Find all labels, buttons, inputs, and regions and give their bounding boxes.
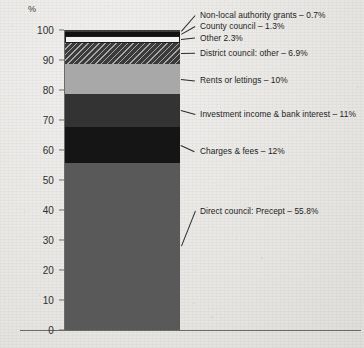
leader-line-charges-fees	[181, 145, 195, 152]
y-tick-label-100: 100	[28, 25, 54, 36]
callout-investment-income-bank-interest: Investment income & bank interest – 11%	[200, 109, 356, 119]
y-tick-label-60: 60	[28, 145, 54, 156]
stacked-bar-chart: % 1009080706050403020100 Non-local autho…	[0, 0, 364, 348]
bar-segment-county-council	[65, 32, 180, 36]
y-tick-label-40: 40	[28, 205, 54, 216]
y-tick-label-90: 90	[28, 55, 54, 66]
y-tick-mark-30	[59, 240, 64, 241]
y-tick-mark-40	[59, 210, 64, 211]
bar-segment-other	[65, 36, 180, 43]
y-tick-mark-90	[59, 60, 64, 61]
leader-line-investment-income-bank-interest	[181, 110, 195, 115]
callout-charges-fees: Charges & fees – 12%	[200, 146, 285, 156]
leader-line-district-council-other	[181, 53, 195, 54]
y-tick-label-80: 80	[28, 85, 54, 96]
bar-segment-direct-council-precept	[65, 163, 180, 330]
bar-segment-rents-or-lettings	[65, 64, 180, 94]
leader-line-direct-council-precept	[181, 211, 196, 247]
bar-segment-investment-income-bank-interest	[65, 94, 180, 127]
callout-rents-or-lettings: Rents or lettings – 10%	[200, 75, 288, 85]
y-tick-mark-100	[59, 30, 64, 31]
bar-segment-non-local-authority-grants	[65, 30, 180, 32]
y-tick-mark-70	[59, 120, 64, 121]
y-tick-label-0: 0	[28, 325, 54, 336]
y-tick-label-50: 50	[28, 175, 54, 186]
y-tick-mark-10	[59, 300, 64, 301]
y-axis-unit-label: %	[28, 4, 36, 14]
leader-line-other	[181, 38, 195, 40]
y-tick-mark-80	[59, 90, 64, 91]
y-tick-mark-0	[59, 330, 64, 331]
y-tick-label-30: 30	[28, 235, 54, 246]
y-tick-label-70: 70	[28, 115, 54, 126]
y-tick-mark-50	[59, 180, 64, 181]
x-axis-baseline	[20, 330, 361, 331]
y-tick-label-20: 20	[28, 265, 54, 276]
y-tick-mark-60	[59, 150, 64, 151]
callout-non-local-authority-grants: Non-local authority grants – 0.7%	[200, 10, 325, 20]
y-tick-mark-20	[59, 270, 64, 271]
y-tick-label-10: 10	[28, 295, 54, 306]
callout-other: Other 2.3%	[200, 33, 243, 43]
leader-line-rents-or-lettings	[181, 79, 195, 81]
callout-direct-council-precept: Direct council: Precept – 55.8%	[200, 206, 318, 216]
callout-district-council-other: District council: other – 6.9%	[200, 48, 308, 58]
stacked-bar	[65, 30, 180, 330]
bar-segment-district-council-other	[65, 43, 180, 64]
bar-segment-charges-fees	[65, 127, 180, 163]
callout-county-council: County council – 1.3%	[200, 21, 284, 31]
